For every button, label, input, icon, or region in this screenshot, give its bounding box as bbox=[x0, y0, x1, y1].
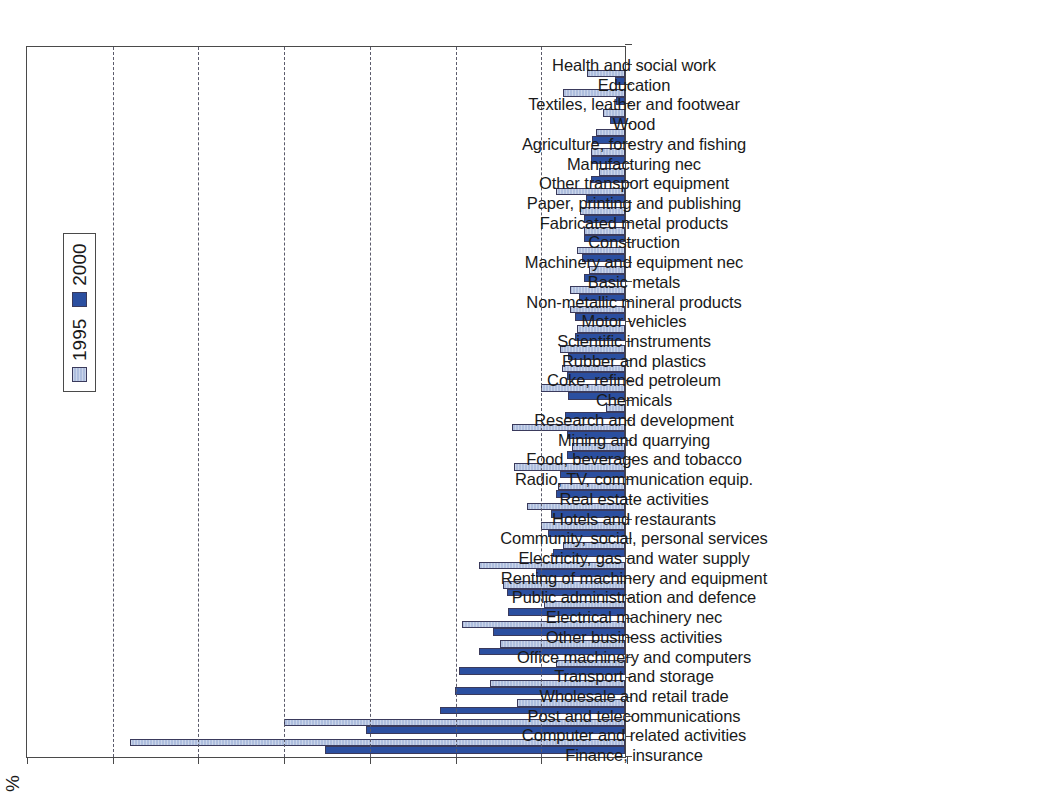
category-label: Manufacturing nec bbox=[567, 156, 701, 173]
category-label: Electricity, gas and water supply bbox=[518, 550, 749, 567]
category-label-cell: Scientific instruments bbox=[632, 323, 1032, 343]
value-axis-unit-label: % bbox=[2, 775, 24, 792]
legend-swatch-1995 bbox=[72, 367, 87, 382]
legend-label-1995: 1995 bbox=[70, 319, 89, 361]
gridline bbox=[284, 47, 285, 757]
value-axis-tick bbox=[541, 757, 542, 764]
category-label: Research and development bbox=[534, 412, 733, 429]
category-label: Textiles, leather and footwear bbox=[528, 96, 740, 113]
category-label: Other business activities bbox=[546, 629, 722, 646]
category-label: Fabricated metal products bbox=[540, 215, 728, 232]
category-label: Community, social, personal services bbox=[500, 530, 768, 547]
category-label: Education bbox=[598, 77, 671, 94]
category-label: Basic metals bbox=[588, 274, 680, 291]
legend-item-1995: 1995 bbox=[70, 319, 89, 382]
bar-group bbox=[27, 166, 625, 186]
value-axis-tick bbox=[370, 757, 371, 764]
value-axis-tick bbox=[198, 757, 199, 764]
category-label: Computer and related activities bbox=[522, 727, 746, 744]
category-label: Other transport equipment bbox=[539, 175, 729, 192]
bar-group bbox=[27, 323, 625, 343]
category-label: Health and social work bbox=[552, 57, 716, 74]
category-label: Electrical machinery nec bbox=[546, 609, 722, 626]
bar-group bbox=[27, 363, 625, 383]
gridline bbox=[370, 47, 371, 757]
category-label: Chemicals bbox=[596, 392, 672, 409]
legend-label-2000: 2000 bbox=[70, 243, 89, 285]
value-axis-tick bbox=[456, 757, 457, 764]
category-label: Machinery and equipment nec bbox=[525, 254, 743, 271]
rotated-chart-stage: 2000 1995 05101520253035% Finance, insur… bbox=[0, 0, 1051, 796]
category-label: Wood bbox=[613, 116, 655, 133]
category-label-cell: Health and social work bbox=[632, 47, 1032, 67]
category-label: Radio, TV, communication equip. bbox=[515, 471, 753, 488]
bar-group bbox=[27, 67, 625, 87]
value-axis-tick bbox=[27, 757, 28, 764]
category-axis-labels: Finance, insuranceComputer and related a… bbox=[632, 46, 1032, 758]
category-label: Wholesale and retail trade bbox=[539, 688, 728, 705]
category-label: Public administration and defence bbox=[512, 589, 756, 606]
bar-group bbox=[27, 500, 625, 520]
category-label: Non-metallic mineral products bbox=[526, 294, 741, 311]
legend-item-2000: 2000 bbox=[70, 243, 89, 306]
category-label: Office machinery and computers bbox=[517, 649, 751, 666]
gridline bbox=[113, 47, 114, 757]
value-axis-tick bbox=[284, 757, 285, 764]
category-label: Real estate activities bbox=[559, 491, 708, 508]
category-label-cell: Machinery and equipment nec bbox=[632, 244, 1032, 264]
bar-group bbox=[27, 618, 625, 638]
category-label: Finance, insurance bbox=[565, 747, 703, 764]
category-label: Mining and quarrying bbox=[558, 432, 710, 449]
bar-chart: 2000 1995 05101520253035% Finance, insur… bbox=[0, 0, 1051, 796]
category-label-cell: Agriculture, forestry and fishing bbox=[632, 126, 1032, 146]
gridline bbox=[456, 47, 457, 757]
category-label: Construction bbox=[588, 234, 679, 251]
category-label: Agriculture, forestry and fishing bbox=[522, 136, 746, 153]
category-axis-tick bbox=[625, 44, 632, 45]
gridline bbox=[198, 47, 199, 757]
bar-group bbox=[27, 225, 625, 245]
category-label: Scientific instruments bbox=[557, 333, 711, 350]
category-label: Paper, printing and publishing bbox=[527, 195, 741, 212]
bar-group bbox=[27, 677, 625, 697]
category-label: Hotels and restaurants bbox=[552, 511, 716, 528]
chart-legend: 2000 1995 bbox=[63, 233, 96, 392]
category-label: Motor vehicles bbox=[582, 313, 687, 330]
category-label-cell: Textiles, leather and footwear bbox=[632, 87, 1032, 107]
bar-group bbox=[27, 343, 625, 363]
category-label-cell: Non-metallic mineral products bbox=[632, 284, 1032, 304]
bar-group bbox=[27, 382, 625, 402]
bar-group bbox=[27, 48, 625, 68]
category-label: Post and telecommunications bbox=[528, 708, 741, 725]
category-label: Rubber and plastics bbox=[562, 353, 706, 370]
value-axis-tick bbox=[113, 757, 114, 764]
category-label: Food, beverages and tobacco bbox=[526, 451, 742, 468]
category-label: Coke, refined petroleum bbox=[547, 372, 721, 389]
category-label-cell: Research and development bbox=[632, 402, 1032, 422]
category-label: Transport and storage bbox=[554, 668, 714, 685]
legend-swatch-2000 bbox=[72, 292, 87, 307]
category-label: Renting of machinery and equipment bbox=[501, 570, 767, 587]
